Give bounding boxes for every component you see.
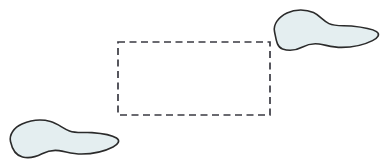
diagram-canvas xyxy=(0,0,386,164)
diagram-svg xyxy=(0,0,386,164)
